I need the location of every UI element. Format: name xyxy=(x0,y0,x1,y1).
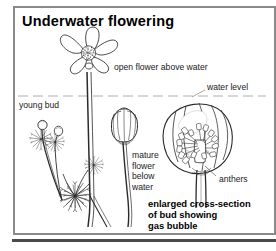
figure-root: Underwater flowering xyxy=(0,0,276,251)
label-open-flower-above-water: open flower above water xyxy=(114,62,208,73)
label-water-level: water level xyxy=(207,82,248,93)
label-young-bud: young bud xyxy=(19,100,59,111)
caption-enlarged-cross-section: enlarged cross-section of bud showing ga… xyxy=(148,198,251,232)
label-anthers: anthers xyxy=(219,174,248,185)
figure-title: Underwater flowering xyxy=(22,13,174,29)
label-mature-flower-below-water: mature flower below water xyxy=(132,150,159,192)
bottom-rule xyxy=(12,239,276,242)
